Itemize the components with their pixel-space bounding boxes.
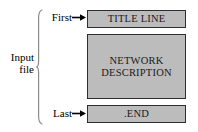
network-description-box-text: NETWORK DESCRIPTION <box>101 55 171 79</box>
input-file-diagram: Input file First Last TITLE LINE NETWORK… <box>0 0 198 132</box>
first-row-label: First <box>44 11 72 23</box>
network-description-line2: DESCRIPTION <box>101 67 171 79</box>
input-file-label-line2: file <box>0 63 34 75</box>
network-description-line1: NETWORK <box>101 55 171 67</box>
end-statement-box: .END <box>87 105 186 123</box>
first-arrow-icon <box>72 13 86 22</box>
input-file-label-line1: Input <box>0 51 34 63</box>
end-statement-box-text: .END <box>124 108 149 120</box>
network-description-box: NETWORK DESCRIPTION <box>87 34 186 99</box>
last-row-label: Last <box>44 107 72 119</box>
title-line-box-text: TITLE LINE <box>108 13 166 25</box>
last-arrow-icon <box>72 109 86 118</box>
input-file-brace-icon <box>36 9 43 125</box>
input-file-label: Input file <box>0 51 34 75</box>
title-line-box: TITLE LINE <box>87 10 186 28</box>
